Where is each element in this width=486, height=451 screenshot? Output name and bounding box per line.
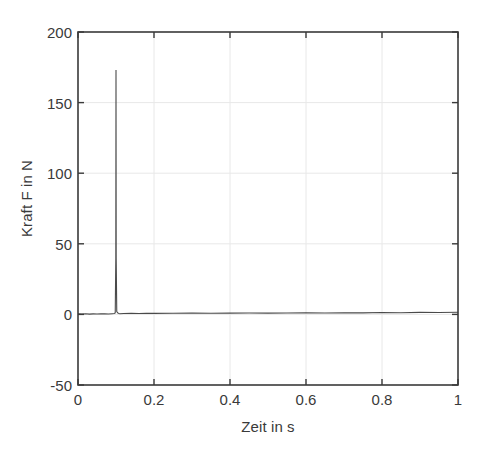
data-series-line: [78, 70, 458, 314]
figure-canvas: Kraft F in N Zeit in s 200 150 100 50 0 …: [0, 0, 486, 451]
plot-area: [0, 0, 486, 451]
axes-frame: [78, 32, 458, 385]
gridlines: [78, 32, 458, 385]
tick-marks: [78, 32, 458, 385]
series-kraft-f: [78, 70, 458, 314]
